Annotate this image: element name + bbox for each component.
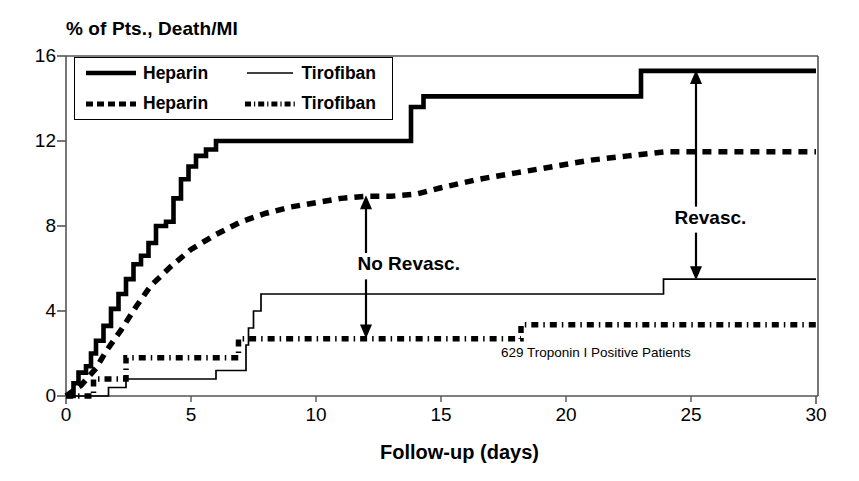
legend-label-heparin-solid: Heparin: [143, 63, 208, 84]
legend-item-heparin-solid: Heparin: [75, 63, 234, 84]
series-tirofiban-no-revasc: [66, 325, 816, 396]
legend-label-tirofiban-solid: Tirofiban: [302, 63, 377, 84]
chart-legend: Heparin Tirofiban Heparin Tirofiban: [74, 57, 393, 120]
legend-swatch-thick-dashed: [85, 97, 137, 111]
legend-label-tirofiban-dashdot: Tirofiban: [302, 93, 377, 114]
annotation-revasc: Revasc.: [672, 207, 750, 229]
legend-swatch-thick-solid: [85, 66, 137, 80]
legend-swatch-thin-solid: [244, 66, 296, 80]
chart-root: % of Pts., Death/MI 16 12 8 4 0 0 5 10 1…: [0, 0, 859, 481]
legend-swatch-thick-dashdot: [244, 97, 296, 111]
revasc-arrow: [690, 70, 702, 280]
legend-item-heparin-dashed: Heparin: [75, 93, 234, 114]
legend-item-tirofiban-dashdot: Tirofiban: [234, 93, 393, 114]
legend-item-tirofiban-solid: Tirofiban: [234, 63, 393, 84]
annotation-no-revasc: No Revasc.: [355, 253, 463, 275]
legend-row-2: Heparin Tirofiban: [75, 89, 392, 120]
annotation-patient-count: 629 Troponin I Positive Patients: [501, 345, 691, 360]
legend-label-heparin-dashed: Heparin: [143, 93, 208, 114]
legend-row-1: Heparin Tirofiban: [75, 58, 392, 89]
